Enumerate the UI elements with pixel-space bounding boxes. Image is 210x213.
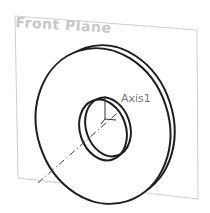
axis1-label: Axis1 [121, 92, 151, 105]
